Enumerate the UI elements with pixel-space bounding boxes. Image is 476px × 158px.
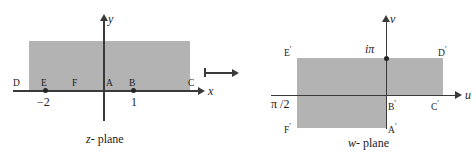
- w-plane-point-label-B-prime-mark: ′: [394, 99, 396, 108]
- w-plane-point-label-E-prime-mark: ′: [290, 45, 292, 54]
- w-plane-point-label-A-prime-mark: ′: [395, 122, 397, 131]
- w-plane-diagram: u v iπ π /2 E′ D′ F′ B′ C′ A′ w- plane: [238, 0, 476, 158]
- w-plane-caption-text: - plane: [356, 136, 389, 150]
- w-plane-point-label-C-prime: C′: [431, 100, 439, 113]
- w-plane-u-axis: [271, 95, 457, 97]
- z-plane-point-label-A: A: [106, 79, 113, 89]
- z-plane-y-axis-arrowhead: [100, 14, 108, 21]
- w-plane-point-label-F-prime: F′: [284, 123, 291, 136]
- w-plane-point-label-D-prime-mark: ′: [445, 45, 447, 54]
- z-plane-tick-value-minus-2: −2: [37, 96, 50, 108]
- z-plane-point-label-E: E: [41, 79, 47, 89]
- w-plane-u-axis-label: u: [465, 89, 471, 101]
- z-plane-y-axis: [103, 21, 105, 121]
- z-plane-point-E-dot: [43, 88, 48, 93]
- w-plane-point-label-A-prime-letter: A: [388, 125, 395, 135]
- w-plane-shaded-region-upper: [297, 58, 443, 95]
- w-plane-u-axis-arrowhead: [455, 91, 462, 99]
- w-plane-point-label-F-prime-mark: ′: [289, 122, 291, 131]
- z-plane-point-label-B: B: [129, 79, 135, 89]
- w-plane-point-label-A-prime: A′: [388, 123, 397, 136]
- z-plane-diagram: x y D E F A B C −2 1 z- plane: [0, 0, 238, 158]
- mapping-arrow: [204, 68, 240, 78]
- w-plane-mark-label-pi-over-2: π /2: [271, 98, 289, 110]
- w-plane-v-axis-label: v: [390, 13, 395, 25]
- z-plane-x-axis: [13, 90, 200, 92]
- z-plane-caption: z- plane: [86, 132, 124, 147]
- w-plane-point-label-B-prime: B′: [388, 100, 396, 113]
- z-plane-y-axis-label: y: [108, 13, 113, 25]
- w-plane-caption: w- plane: [348, 136, 389, 151]
- w-plane-shaded-region-lower-left: [297, 95, 386, 128]
- z-plane-x-axis-label: x: [208, 85, 213, 97]
- w-plane-point-label-D-prime-letter: D: [438, 48, 445, 58]
- mapping-arrow-shaft: [204, 72, 233, 74]
- w-plane-point-label-C-prime-mark: ′: [437, 99, 439, 108]
- z-plane-point-B-dot: [131, 88, 136, 93]
- figure-canvas: x y D E F A B C −2 1 z- plane: [0, 0, 476, 158]
- w-plane-v-axis: [386, 22, 388, 129]
- z-plane-x-axis-arrowhead: [198, 87, 205, 95]
- z-plane-point-label-C: C: [188, 79, 194, 89]
- w-plane-mark-label-i-pi: iπ: [365, 43, 374, 55]
- z-plane-tick-value-1: 1: [131, 96, 137, 108]
- z-plane-point-label-F: F: [72, 79, 77, 89]
- w-plane-caption-variable: w: [348, 136, 356, 150]
- w-plane-point-i-pi-dot: [384, 56, 389, 61]
- z-plane-point-label-D: D: [13, 79, 20, 89]
- w-plane-point-label-D-prime: D′: [438, 46, 447, 59]
- z-plane-caption-text: - plane: [91, 132, 124, 146]
- w-plane-point-label-E-prime: E′: [284, 46, 292, 59]
